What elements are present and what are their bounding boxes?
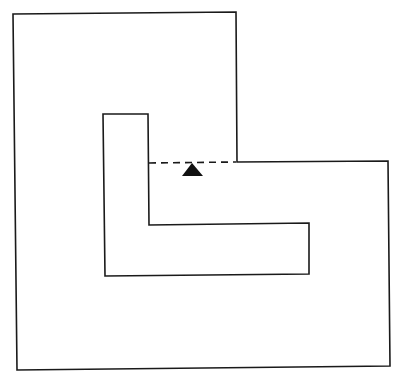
triangle-marker-icon [182, 163, 203, 176]
dashed-opening [149, 162, 236, 163]
inner-obstacle [103, 114, 309, 276]
diagram-canvas [0, 0, 403, 380]
outer-boundary [13, 12, 390, 370]
